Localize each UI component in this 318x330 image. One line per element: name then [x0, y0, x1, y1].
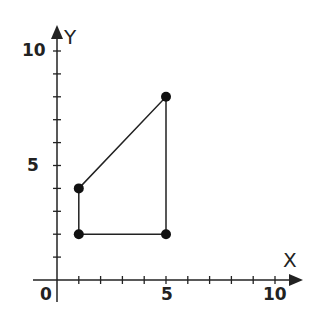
data-points [74, 92, 171, 239]
polygon [79, 97, 166, 234]
x-axis-arrow-icon [289, 274, 303, 286]
data-point [161, 229, 171, 239]
polygon-outline [79, 97, 166, 234]
y-tick-label-10: 10 [22, 42, 46, 59]
x-tick-label-10: 10 [263, 286, 287, 303]
y-axis-arrow-icon [51, 25, 63, 39]
y-axis-label: Y [64, 27, 76, 47]
data-point [74, 229, 84, 239]
data-point [161, 92, 171, 102]
data-point [74, 183, 84, 193]
x-axis-label: X [283, 250, 297, 270]
origin-label: 0 [40, 286, 52, 303]
axes [33, 25, 303, 302]
y-tick-label-5: 5 [27, 157, 39, 174]
x-tick-label-5: 5 [161, 286, 173, 303]
coordinate-plot [0, 0, 318, 330]
